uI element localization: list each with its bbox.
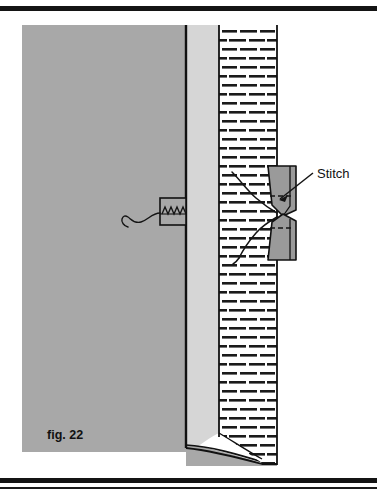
technical-cross-section-figure: Stitch fig. 22 <box>0 0 377 493</box>
threaded-insert-box <box>160 198 186 225</box>
figure-caption: fig. 22 <box>47 428 83 442</box>
panel-body <box>22 25 186 452</box>
hatched-section <box>219 25 277 465</box>
figure-page: Stitch fig. 22 <box>0 0 377 493</box>
callout-label-stitch: Stitch <box>317 166 350 181</box>
panel-edge-strip <box>186 25 219 452</box>
stitch-block-lower <box>268 214 296 260</box>
